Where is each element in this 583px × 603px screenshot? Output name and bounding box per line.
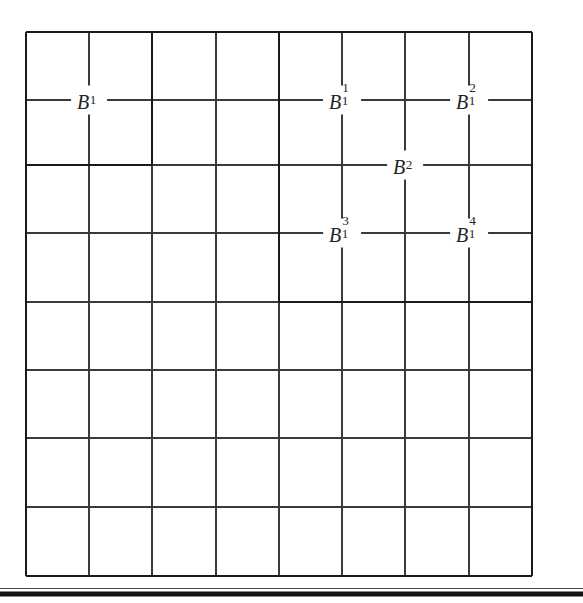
label-b1-1: B11 — [323, 86, 361, 115]
label-b1-4: B41 — [450, 219, 488, 248]
label-b1-3: B31 — [323, 219, 361, 248]
bottom-rule-group — [0, 589, 583, 595]
label-b1-2-sub: 1 — [469, 94, 476, 107]
label-b1: B1 — [71, 86, 107, 115]
label-b1-4-sup: 4 — [469, 213, 476, 226]
figure-canvas: B1 B11 B21 B2 B31 B41 — [0, 0, 583, 603]
label-b1-1-sub: 1 — [342, 94, 349, 107]
label-b1-3-sub: 1 — [342, 227, 349, 240]
label-b1-4-sub: 1 — [469, 227, 476, 240]
label-b1-2: B21 — [450, 86, 488, 115]
label-b1-2-sup: 2 — [469, 80, 476, 93]
label-b1-sub: 1 — [90, 92, 97, 105]
label-b2-sub: 2 — [406, 157, 413, 170]
label-b1-3-sup: 3 — [342, 213, 349, 226]
label-b2: B2 — [387, 151, 423, 180]
label-b1-1-sup: 1 — [342, 80, 349, 93]
